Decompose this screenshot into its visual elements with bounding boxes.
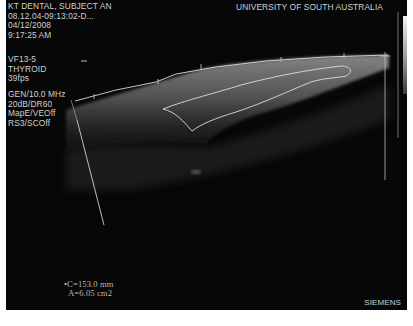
measurement-readout: •C=153.0 mm A=6.05 cm2: [64, 280, 114, 297]
echo-spot: [191, 170, 201, 174]
area-value: A=6.05 cm2: [64, 289, 114, 298]
grayscale-bar: [403, 16, 407, 94]
brand-logo: SIEMENS: [364, 298, 401, 308]
probe-info: VF13-5 THYROID 39fps: [8, 55, 46, 84]
exam-time: 9:17:25 AM: [8, 31, 112, 41]
ultrasound-scan: [6, 0, 407, 310]
imaging-params: GEN/10.0 MHz 20dB/DR60 MapE/VEOff RS3/SC…: [8, 90, 66, 128]
ultrasound-image: KT DENTAL, SUBJECT AN 08.12.04-09:13:02-…: [6, 0, 407, 310]
patient-info: KT DENTAL, SUBJECT AN 08.12.04-09:13:02-…: [8, 2, 112, 40]
resolution-setting: RS3/SCOff: [8, 119, 66, 129]
frame-rate: 39fps: [8, 74, 46, 84]
institution-label: UNIVERSITY OF SOUTH AUSTRALIA: [236, 3, 383, 13]
